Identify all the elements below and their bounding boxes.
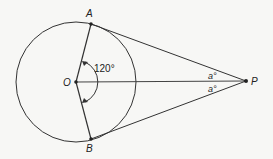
- point-o: [74, 80, 78, 84]
- segment-op: [76, 81, 246, 82]
- point-p: [244, 79, 248, 83]
- label-p: P: [251, 76, 258, 87]
- label-b: B: [86, 143, 93, 154]
- tangent-pb: [91, 81, 246, 139]
- point-b: [89, 137, 93, 141]
- angle-label-bpo: a°: [208, 84, 217, 94]
- point-a: [89, 22, 93, 26]
- angle-label-aob: 120°: [94, 63, 115, 74]
- geometry-diagram: A B O P 120° a° a°: [0, 0, 273, 159]
- radius-oa: [76, 24, 91, 82]
- label-o: O: [63, 77, 71, 88]
- radius-ob: [76, 82, 91, 139]
- angle-label-apo: a°: [208, 71, 217, 81]
- label-a: A: [85, 8, 93, 19]
